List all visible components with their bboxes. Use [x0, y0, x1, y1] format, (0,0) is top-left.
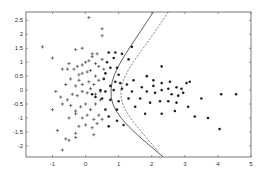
plus-marker [79, 105, 82, 108]
plus-marker [61, 102, 64, 105]
dot-marker [149, 101, 152, 104]
dot-marker [193, 115, 196, 118]
scatter-chart: -1012345 -2-1.5-1-0.500.511.522.5 [0, 0, 266, 172]
plus-marker [89, 108, 92, 111]
plus-marker [71, 93, 74, 96]
dot-marker [116, 108, 119, 111]
dot-marker [109, 85, 112, 88]
plus-marker [66, 98, 69, 101]
plus-marker [77, 125, 80, 128]
plus-marker [56, 129, 59, 132]
dot-marker [122, 124, 125, 127]
x-tick-label: 1 [117, 161, 121, 167]
dot-marker [235, 93, 238, 96]
plus-marker [81, 116, 84, 119]
chart-canvas: -1012345 -2-1.5-1-0.500.511.522.5 [0, 0, 266, 172]
y-tick-label: 2.5 [15, 17, 24, 23]
dot-marker [175, 86, 178, 89]
plus-marker [66, 68, 69, 71]
plus-marker [91, 52, 94, 55]
plus-marker [41, 45, 44, 48]
plus-marker [97, 79, 100, 82]
plus-marker [86, 70, 89, 73]
plus-marker [74, 132, 77, 135]
plus-marker [81, 83, 84, 86]
dot-marker [207, 117, 210, 120]
plus-marker [97, 114, 100, 117]
plus-marker [86, 114, 89, 117]
decision-boundary-dashed [121, 12, 168, 151]
plus-marker [74, 136, 77, 139]
dot-marker [121, 53, 124, 56]
plus-marker [81, 72, 84, 75]
decision-boundary-solid [111, 12, 163, 157]
dot-marker [116, 66, 119, 69]
y-tick-label: 1.5 [15, 45, 24, 51]
dot-marker [167, 87, 170, 90]
dot-marker [160, 65, 163, 68]
dot-marker [121, 87, 124, 90]
plus-marker [54, 90, 57, 93]
plus-marker [51, 108, 54, 111]
dot-marker [127, 97, 130, 100]
dot-marker [187, 106, 190, 109]
dot-marker [104, 72, 107, 75]
plus-marker [89, 69, 92, 72]
plus-marker [87, 16, 90, 19]
plus-marker [69, 77, 72, 80]
dot-marker [112, 57, 115, 60]
dot-marker [126, 83, 129, 86]
plus-marker [64, 137, 67, 140]
dot-marker [107, 115, 110, 118]
dot-marker [101, 97, 104, 100]
plus-marker [102, 68, 105, 71]
dot-marker [116, 119, 119, 122]
dot-marker [134, 106, 137, 109]
plus-marker [101, 118, 104, 121]
dot-marker [200, 97, 203, 100]
plus-marker [77, 73, 80, 76]
dot-marker [182, 92, 185, 95]
plus-marker [81, 63, 84, 66]
dot-marker [131, 90, 134, 93]
plus-marker [87, 80, 90, 83]
dot-marker [152, 85, 155, 88]
dot-marker [154, 92, 157, 95]
plus-marker [84, 123, 87, 126]
dot-marker [107, 125, 110, 128]
plus-marker [61, 148, 64, 151]
dot-marker [131, 46, 134, 49]
dot-marker [106, 61, 109, 64]
dot-marker [177, 94, 180, 97]
x-tick-label: 5 [249, 161, 253, 167]
dot-marker [139, 97, 142, 100]
plus-marker [72, 68, 75, 71]
x-tick-label: 4 [216, 161, 220, 167]
dot-marker [144, 112, 147, 115]
dot-marker [94, 96, 97, 99]
dot-marker [102, 78, 105, 81]
dot-marker [218, 128, 221, 131]
dot-marker [188, 80, 191, 83]
dot-marker [185, 82, 188, 85]
dot-marker [91, 93, 94, 96]
dot-marker [117, 100, 120, 103]
plus-marker [74, 112, 77, 115]
plus-marker [74, 84, 77, 87]
dot-marker [145, 75, 148, 78]
plus-marker [94, 102, 97, 105]
plus-marker [94, 75, 97, 78]
plus-marker [69, 104, 72, 107]
y-tick-label: 2 [20, 31, 24, 37]
x-tick-label: 2 [150, 161, 154, 167]
plus-marker [96, 122, 99, 125]
plus-marker [89, 87, 92, 90]
plus-marker [91, 55, 94, 58]
dot-marker [109, 99, 112, 102]
plus-marker [84, 61, 87, 64]
dot-marker [145, 90, 148, 93]
plus-marker [67, 62, 70, 65]
plus-marker [77, 79, 80, 82]
plus-marker [67, 116, 70, 119]
dot-marker [127, 58, 130, 61]
